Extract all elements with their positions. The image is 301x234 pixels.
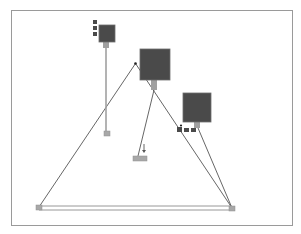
connector-tri-right [136,64,233,209]
vertex-dot[interactable] [180,124,182,126]
vertex-dot[interactable] [134,62,137,65]
connector-b-link [138,90,154,156]
connector-c-link [198,128,232,208]
anchor-handle[interactable] [36,205,42,210]
diagram-nodes [36,20,235,211]
port-square[interactable] [191,128,196,132]
node-stem [151,80,157,90]
port-square[interactable] [177,127,182,132]
arrow-down-icon [142,150,146,153]
diagram-node[interactable] [99,25,115,42]
anchor-handle[interactable] [229,206,235,211]
connector-lines [39,48,232,210]
node-stem [194,122,200,128]
diagram-node[interactable] [140,49,170,80]
port-square[interactable] [93,32,97,36]
port-square[interactable] [184,128,189,132]
anchor-handle[interactable] [133,156,147,161]
connector-tri-left [39,64,136,208]
port-square[interactable] [93,26,97,30]
anchor-handle[interactable] [104,131,110,136]
diagram-node[interactable] [183,93,211,122]
port-square[interactable] [93,20,97,24]
node-stem [103,42,109,48]
diagram-canvas [0,0,301,234]
